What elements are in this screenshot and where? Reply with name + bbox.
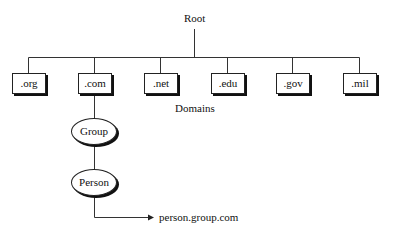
- domain-net: .net: [144, 73, 178, 94]
- result-label: person.group.com: [159, 211, 238, 223]
- domains-label: Domains: [175, 102, 215, 114]
- domain-edu: .edu: [211, 73, 245, 94]
- domain-com: .com: [78, 73, 112, 94]
- arrowhead-icon: [148, 215, 154, 221]
- root-label: Root: [184, 12, 205, 24]
- connector-lines: [0, 0, 394, 236]
- domain-mil: .mil: [343, 73, 377, 94]
- group-node: Group: [71, 118, 117, 145]
- domain-org: .org: [12, 73, 46, 94]
- person-node: Person: [71, 169, 117, 196]
- domain-gov: .gov: [276, 73, 310, 94]
